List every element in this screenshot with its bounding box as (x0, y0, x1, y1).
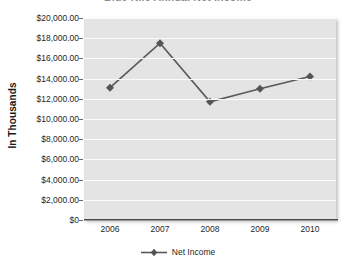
y-axis-tick-mark (79, 119, 83, 120)
gridline (84, 200, 336, 201)
gridline (84, 159, 336, 160)
gridline (84, 79, 336, 80)
x-axis-tick-label: 2010 (285, 224, 335, 234)
y-axis-tick-mark (79, 99, 83, 100)
x-axis-tick-labels: 20062007200820092010 (84, 224, 336, 240)
x-axis-tick-label: 2009 (235, 224, 285, 234)
y-axis-tick-label: $10,000.00 (15, 114, 79, 124)
y-axis-tick-label: $4,000.00 (15, 175, 79, 185)
y-axis-tick-label: $18,000.00 (15, 33, 79, 43)
data-point-marker (256, 85, 264, 93)
series-line (110, 43, 310, 102)
y-axis-tick-label: $20,000.00 (15, 13, 79, 23)
y-axis-tick-mark (79, 159, 83, 160)
y-axis-tick-mark (79, 79, 83, 80)
y-axis-tick-mark (79, 220, 83, 221)
y-axis-tick-label: $2,000.00 (15, 195, 79, 205)
y-axis-tick-label: $6,000.00 (15, 154, 79, 164)
legend-marker-icon (141, 248, 167, 257)
gridline (84, 119, 336, 120)
gridline (84, 18, 336, 19)
x-axis-tick-label: 2008 (185, 224, 235, 234)
y-axis-tick-label: $8,000.00 (15, 134, 79, 144)
legend-label-net-income: Net Income (172, 247, 215, 257)
gridline (84, 58, 336, 59)
x-axis-tick-label: 2007 (135, 224, 185, 234)
y-axis-tick-mark (79, 58, 83, 59)
chart-legend: Net Income (0, 243, 356, 261)
y-axis-tick-label: $16,000.00 (15, 53, 79, 63)
y-axis-tick-label: $0 (15, 215, 79, 225)
gridline (84, 180, 336, 181)
gridline (84, 38, 336, 39)
gridline (84, 99, 336, 100)
x-axis-line-shadow (84, 220, 338, 221)
y-axis-tick-mark (79, 38, 83, 39)
y-axis-tick-mark (79, 18, 83, 19)
plot-area (84, 18, 336, 220)
y-axis-tick-labels: $0$2,000.00$4,000.00$6,000.00$8,000.00$1… (18, 14, 82, 226)
gridline (84, 139, 336, 140)
chart-title: Blue Nile Annual Net Income (0, 0, 356, 3)
y-axis-tick-mark (79, 139, 83, 140)
chart-figure: Blue Nile Annual Net Income In Thousands… (0, 0, 356, 266)
y-axis-tick-label: $12,000.00 (15, 94, 79, 104)
y-axis-tick-mark (79, 180, 83, 181)
y-axis-tick-label: $14,000.00 (15, 74, 79, 84)
y-axis-tick-mark (79, 200, 83, 201)
x-axis-tick-label: 2006 (85, 224, 135, 234)
